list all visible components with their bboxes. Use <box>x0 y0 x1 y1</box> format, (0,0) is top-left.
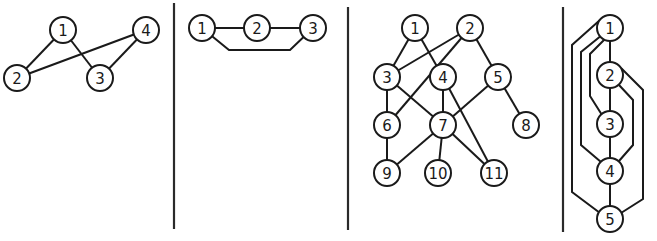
node-label: 4 <box>141 22 151 40</box>
graph-figure: 1234123123456789101112345 <box>0 0 657 241</box>
node-label: 3 <box>95 70 105 88</box>
node-7: 7 <box>430 112 456 138</box>
node-label: 10 <box>428 165 447 183</box>
node-label: 4 <box>438 69 448 87</box>
node-label: 1 <box>410 20 420 38</box>
node-label: 8 <box>521 117 531 135</box>
node-label: 3 <box>382 69 392 87</box>
node-label: 9 <box>382 165 392 183</box>
node-label: 1 <box>605 20 615 38</box>
node-3: 3 <box>597 111 623 137</box>
node-label: 5 <box>605 211 615 229</box>
node-label: 6 <box>382 117 392 135</box>
node-label: 2 <box>465 20 475 38</box>
node-1: 1 <box>189 15 215 41</box>
node-label: 11 <box>484 165 503 183</box>
node-3: 3 <box>374 64 400 90</box>
node-4: 4 <box>430 64 456 90</box>
node-10: 10 <box>425 160 451 186</box>
panel-dividers <box>174 3 563 232</box>
node-label: 5 <box>493 69 503 87</box>
node-5: 5 <box>485 64 511 90</box>
edge-2-3 <box>387 28 470 77</box>
node-6: 6 <box>374 112 400 138</box>
node-label: 1 <box>58 22 68 40</box>
panel-1-edges <box>17 30 146 78</box>
node-11: 11 <box>481 160 507 186</box>
node-2: 2 <box>457 15 483 41</box>
node-label: 1 <box>197 20 207 38</box>
node-label: 2 <box>252 20 262 38</box>
node-4: 4 <box>133 17 159 43</box>
edge-2-4 <box>17 30 146 78</box>
node-label: 4 <box>605 163 615 181</box>
node-8: 8 <box>513 112 539 138</box>
node-1: 1 <box>50 17 76 43</box>
node-1: 1 <box>402 15 428 41</box>
node-label: 3 <box>308 20 318 38</box>
panel-2-nodes: 123 <box>189 15 326 41</box>
node-label: 2 <box>605 67 615 85</box>
node-2: 2 <box>244 15 270 41</box>
node-label: 2 <box>12 70 22 88</box>
node-4: 4 <box>597 158 623 184</box>
panel-3-edges <box>387 28 526 173</box>
graph-edges <box>17 20 643 219</box>
node-label: 7 <box>438 117 448 135</box>
node-3: 3 <box>87 65 113 91</box>
node-9: 9 <box>374 160 400 186</box>
node-1: 1 <box>597 15 623 41</box>
node-2: 2 <box>4 65 30 91</box>
node-3: 3 <box>300 15 326 41</box>
node-2: 2 <box>597 62 623 88</box>
node-5: 5 <box>597 206 623 232</box>
node-label: 3 <box>605 116 615 134</box>
